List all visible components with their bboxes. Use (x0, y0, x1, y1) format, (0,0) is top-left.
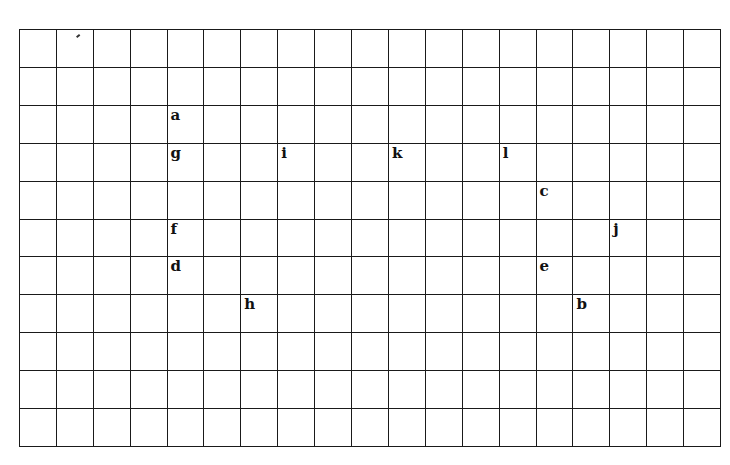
grid-cell (56, 143, 93, 181)
grid-cell (314, 370, 351, 408)
grid-cell (462, 181, 499, 219)
grid-cell (499, 294, 536, 332)
grid-cell (314, 105, 351, 143)
cell-letter-label: k (392, 146, 402, 161)
grid-cell (462, 294, 499, 332)
grid-cell (130, 67, 167, 105)
grid-cell (240, 256, 277, 294)
grid-cell (388, 332, 425, 370)
grid-cell (646, 29, 683, 67)
grid-cell: l (499, 143, 536, 181)
grid-cell (572, 29, 609, 67)
grid-cell: e (536, 256, 573, 294)
grid-cell (203, 67, 240, 105)
grid-cell (167, 370, 204, 408)
grid-cell (351, 143, 388, 181)
grid-cell (56, 294, 93, 332)
grid-cell (425, 256, 462, 294)
grid-cell (609, 408, 646, 446)
grid-cell (646, 408, 683, 446)
grid-cell (130, 408, 167, 446)
grid-cell (683, 67, 720, 105)
grid-cell (203, 143, 240, 181)
grid-cell (277, 256, 314, 294)
grid-cell (167, 29, 204, 67)
grid-cell (130, 105, 167, 143)
cell-letter-label: d (171, 259, 182, 274)
cell-letter-label: a (171, 108, 181, 123)
grid-cell (130, 256, 167, 294)
grid-cell (462, 332, 499, 370)
grid-cell (203, 408, 240, 446)
grid-cell (646, 294, 683, 332)
grid-cell (56, 256, 93, 294)
grid-cell (683, 105, 720, 143)
grid-cell (351, 105, 388, 143)
grid-cell (609, 256, 646, 294)
grid-cell (203, 219, 240, 257)
grid-cell (19, 105, 56, 143)
grid-cell (19, 67, 56, 105)
grid-cell (314, 294, 351, 332)
grid-cell (167, 67, 204, 105)
grid-cell (572, 408, 609, 446)
grid-cell (462, 408, 499, 446)
grid-cell (19, 181, 56, 219)
grid-cell (425, 219, 462, 257)
grid-cell (351, 370, 388, 408)
grid-cell (314, 181, 351, 219)
grid-cell (683, 143, 720, 181)
grid-cell (499, 105, 536, 143)
grid-cell (572, 181, 609, 219)
grid-cell (203, 181, 240, 219)
grid-cell (240, 105, 277, 143)
grid-cell (130, 219, 167, 257)
grid-cell (351, 181, 388, 219)
grid-cell (683, 256, 720, 294)
grid-cell: i (277, 143, 314, 181)
grid-cell (388, 370, 425, 408)
grid-cell (93, 67, 130, 105)
grid-cell (314, 219, 351, 257)
grid-cell (19, 370, 56, 408)
grid-cell (351, 67, 388, 105)
grid-cell (683, 29, 720, 67)
grid-cell: d (167, 256, 204, 294)
grid-cell (683, 219, 720, 257)
grid-cell (19, 256, 56, 294)
grid-cell (93, 105, 130, 143)
grid-cell (499, 332, 536, 370)
grid-cell (609, 332, 646, 370)
cell-letter-label: e (540, 259, 550, 274)
grid-cell (93, 256, 130, 294)
grid-cell (56, 29, 93, 67)
grid-cell (425, 29, 462, 67)
grid-cell: c (536, 181, 573, 219)
grid-cell (240, 181, 277, 219)
grid-cell (572, 67, 609, 105)
cell-letter-label: l (503, 146, 509, 161)
grid-cell (130, 181, 167, 219)
grid-cell (646, 219, 683, 257)
grid-cell (388, 256, 425, 294)
grid-cell (56, 67, 93, 105)
grid-cell (130, 370, 167, 408)
grid-cell (314, 143, 351, 181)
grid-cell (19, 294, 56, 332)
grid-cell (536, 29, 573, 67)
grid-cell (425, 370, 462, 408)
cell-letter-label: g (171, 146, 182, 161)
grid-cell (609, 143, 646, 181)
grid-cell (203, 370, 240, 408)
grid-cell (646, 256, 683, 294)
grid-cell: a (167, 105, 204, 143)
grid-cell (240, 29, 277, 67)
grid-cell (19, 143, 56, 181)
grid-cell (56, 408, 93, 446)
grid-cell (130, 143, 167, 181)
grid-cell (351, 408, 388, 446)
grid-cell (609, 105, 646, 143)
grid-cell (462, 143, 499, 181)
grid-cell (572, 219, 609, 257)
grid-cell (240, 370, 277, 408)
